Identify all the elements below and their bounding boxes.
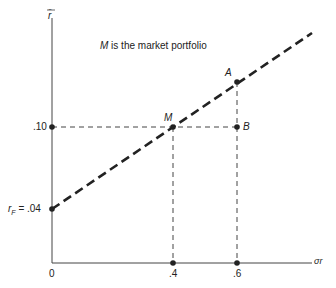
label-b: B — [243, 121, 250, 132]
point-y-010 — [49, 124, 55, 130]
point-x-04 — [170, 260, 176, 266]
x-tick-06: .6 — [233, 268, 241, 279]
y-axis-label: r̄ — [48, 10, 51, 21]
rf-value: = .04 — [16, 203, 41, 214]
point-b — [234, 124, 240, 130]
y-tick-010: .10 — [33, 121, 47, 132]
x-tick-04: .4 — [169, 268, 177, 279]
point-x-06 — [234, 260, 240, 266]
point-rf — [49, 206, 55, 212]
x-tick-0: 0 — [49, 268, 55, 279]
label-m: M — [164, 112, 172, 123]
x-axis-label: σr — [314, 256, 322, 266]
label-a: A — [225, 67, 232, 78]
capital-market-line — [52, 33, 312, 209]
point-m — [170, 124, 176, 130]
chart-title: M is the market portfolio — [100, 40, 207, 51]
point-a — [234, 79, 240, 85]
title-rest: is the market portfolio — [108, 40, 206, 51]
y-tick-rf: rF = .04 — [8, 203, 41, 216]
